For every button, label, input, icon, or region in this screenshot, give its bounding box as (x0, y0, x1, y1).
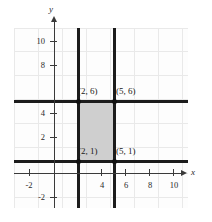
vertex-point-2-6 (76, 99, 81, 104)
line-x-equals-5 (113, 28, 116, 208)
x-axis (14, 173, 182, 175)
vertex-point-5-6 (112, 99, 117, 104)
x-axis-label: x (191, 167, 195, 177)
gridline-horizontal (14, 51, 188, 52)
gridline-vertical (38, 28, 39, 208)
vertex-point-2-1 (76, 159, 81, 164)
x-tick-label: 4 (93, 180, 111, 190)
x-tick-label: 8 (141, 180, 159, 190)
x-tick-label: -2 (20, 180, 38, 190)
y-tick-label: 2 (29, 132, 45, 142)
line-y-equals-6 (14, 100, 188, 103)
point-annotation-5-6: (5, 6) (116, 86, 136, 96)
line-x-equals-2 (77, 28, 80, 208)
x-tick (125, 169, 126, 176)
y-tick (50, 113, 57, 114)
gridline-vertical (14, 28, 15, 208)
x-tick (149, 169, 150, 176)
y-tick-label: 10 (29, 36, 45, 46)
x-tick (29, 169, 30, 176)
y-tick (50, 41, 57, 42)
coordinate-plane-figure: x y -2 4 6 8 10 10 8 4 2 -2 (2, 6) (5, 6… (0, 0, 212, 222)
y-axis-label: y (49, 4, 53, 14)
x-tick (173, 169, 174, 176)
point-annotation-2-1: (2, 1) (78, 146, 98, 156)
point-annotation-5-1: (5, 1) (116, 146, 136, 156)
x-tick (101, 169, 102, 176)
vertex-point-5-1 (112, 159, 117, 164)
line-y-equals-1 (14, 160, 188, 163)
y-tick (50, 197, 57, 198)
x-axis-arrow-icon (181, 170, 187, 176)
x-tick-label: 10 (165, 180, 183, 190)
point-annotation-2-6: (2, 6) (78, 86, 98, 96)
gridline-horizontal (14, 75, 188, 76)
y-tick-label: 4 (29, 108, 45, 118)
gridline-horizontal (14, 28, 188, 29)
y-axis (54, 22, 56, 208)
y-tick-label: -2 (27, 192, 45, 202)
x-tick-label: 6 (117, 180, 135, 190)
y-tick-label: 8 (29, 60, 45, 70)
y-tick (50, 65, 57, 66)
gridline-vertical (62, 28, 63, 208)
y-axis-arrow-icon (51, 16, 57, 22)
y-tick (50, 137, 57, 138)
